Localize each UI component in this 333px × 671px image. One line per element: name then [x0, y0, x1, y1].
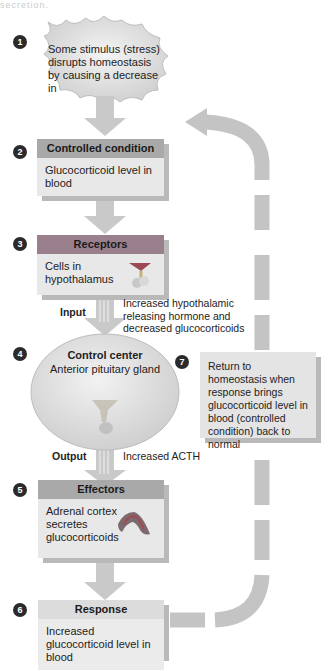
response-text: Increased glucocorticoid level in blood	[38, 619, 164, 670]
return-to-homeostasis-box: Return to homeostasis when response brin…	[200, 352, 316, 438]
step-number-7: 7	[175, 355, 189, 369]
step-number-1: 1	[13, 35, 27, 49]
receptors-box: Receptors Cells in hypothalamus	[37, 235, 164, 295]
step-number-5: 5	[13, 483, 27, 497]
input-label: Input	[60, 306, 86, 319]
response-box: Response Increased glucocorticoid level …	[38, 600, 164, 656]
step-number-6: 6	[13, 603, 27, 617]
feedback-arrowhead	[185, 108, 207, 136]
receptors-title: Receptors	[37, 235, 164, 254]
diagram-graphics	[0, 0, 333, 671]
step-number-3: 3	[13, 237, 27, 251]
control-center-text: Anterior pituitary gland	[40, 363, 170, 376]
receptors-text: Cells in hypothalamus	[37, 254, 125, 292]
output-label: Output	[52, 450, 86, 463]
hypothalamus-cell-icon	[127, 259, 153, 291]
adrenal-gland-icon	[116, 508, 152, 538]
controlled-condition-title: Controlled condition	[37, 139, 164, 158]
return-to-homeostasis-text: Return to homeostasis when response brin…	[200, 352, 316, 459]
controlled-condition-text: Glucocorticoid level in blood	[37, 158, 164, 196]
stimulus-text: Some stimulus (stress) disrupts homeosta…	[48, 43, 160, 95]
effectors-title: Effectors	[38, 480, 164, 499]
effectors-text: Adrenal cortex secretes glucocorticoids	[38, 499, 126, 550]
response-title: Response	[38, 600, 164, 619]
control-center-title: Control center	[46, 349, 164, 362]
step-number-4: 4	[13, 347, 27, 361]
step-number-2: 2	[13, 145, 27, 159]
output-description: Increased ACTH	[123, 450, 200, 463]
controlled-condition-box: Controlled condition Glucocorticoid leve…	[37, 139, 164, 196]
input-description: Increased hypothalamic releasing hormone…	[123, 297, 255, 335]
effectors-box: Effectors Adrenal cortex secretes glucoc…	[38, 480, 164, 558]
